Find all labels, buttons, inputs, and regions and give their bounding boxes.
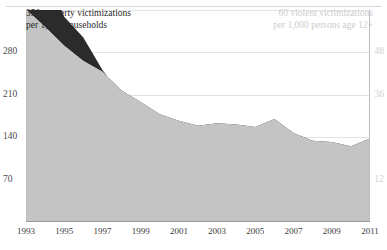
series-svg-layer [26, 10, 370, 222]
y-tick-right-48: 48 [375, 46, 385, 56]
y-tick-left-210: 210 [3, 89, 17, 99]
y-tick-right-12: 12 [375, 174, 385, 184]
y-tick-left-280: 280 [3, 46, 17, 56]
x-tick-1999: 1999 [124, 226, 158, 236]
x-tick-2009: 2009 [315, 226, 349, 236]
x-tick-2005: 2005 [238, 226, 272, 236]
left-caption-line-2: per 1,000 households [26, 20, 206, 32]
y-tick-right-36: 36 [375, 89, 385, 99]
x-tick-2001: 2001 [162, 226, 196, 236]
axis-line-left [26, 10, 27, 222]
left-caption-line-1: 350 property victimizations [26, 8, 206, 20]
top-divider-rule [6, 6, 381, 7]
x-tick-1995: 1995 [47, 226, 81, 236]
x-tick-2011: 2011 [353, 226, 387, 236]
victimization-rate-chart: 350 property victimizations per 1,000 ho… [0, 0, 387, 250]
x-tick-2007: 2007 [277, 226, 311, 236]
axis-line-bottom [26, 221, 370, 222]
y-tick-left-70: 70 [3, 174, 13, 184]
right-caption-line-1: 60 violent victimizations [188, 8, 373, 20]
plot-area [26, 10, 370, 222]
x-tick-2003: 2003 [200, 226, 234, 236]
x-tick-1997: 1997 [85, 226, 119, 236]
right-series-caption: 60 violent victimizations per 1,000 pers… [188, 8, 373, 31]
y-tick-left-140: 140 [3, 131, 17, 141]
left-series-caption: 350 property victimizations per 1,000 ho… [26, 8, 206, 31]
x-tick-1993: 1993 [9, 226, 43, 236]
right-caption-line-2: per 1,000 persons age 12+ [188, 20, 373, 32]
clipped-heading [0, 0, 387, 4]
axis-line-right [369, 10, 370, 222]
